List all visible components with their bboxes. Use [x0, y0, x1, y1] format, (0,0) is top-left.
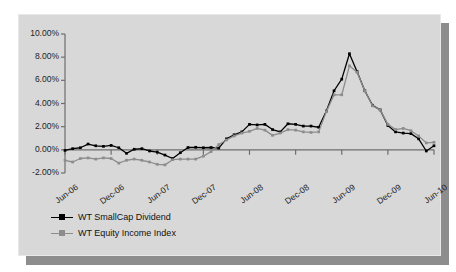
series-point-marker [264, 129, 267, 132]
series-point-marker [79, 157, 82, 160]
series-point-marker [179, 158, 182, 161]
y-axis-tick-label: 10.00% [15, 28, 59, 38]
series-point-marker [248, 130, 251, 133]
series-point-marker [240, 132, 243, 135]
series-point-marker [402, 132, 405, 135]
series-point-marker [340, 93, 343, 96]
series-point-marker [410, 132, 413, 135]
series-point-marker [94, 158, 97, 161]
series-point-marker [117, 146, 120, 149]
series-point-marker [141, 159, 144, 162]
y-axis-tick-label: 8.00% [15, 51, 59, 61]
series-point-marker [417, 135, 420, 138]
legend-item-0: WT SmallCap Dividend [51, 211, 171, 223]
series-point-marker [256, 124, 259, 127]
series-point-marker [125, 152, 128, 155]
series-point-marker [117, 162, 120, 165]
series-point-marker [348, 65, 351, 68]
y-axis-tick-label: 6.00% [15, 74, 59, 84]
series-point-marker [233, 135, 236, 138]
series-point-marker [417, 137, 420, 140]
series-point-marker [110, 157, 113, 160]
series-point-marker [302, 131, 305, 134]
series-point-marker [202, 146, 205, 149]
series-point-marker [164, 164, 167, 167]
legend-item-1: WT Equity Income Index [51, 227, 176, 239]
chart-axes [61, 34, 434, 173]
series-point-marker [202, 155, 205, 158]
series-point-marker [156, 163, 159, 166]
series-point-marker [87, 157, 90, 160]
series-point-marker [210, 150, 213, 153]
series-point-marker [217, 147, 220, 150]
series-point-marker [148, 161, 151, 164]
y-axis-tick-label: 0.00% [15, 144, 59, 154]
series-point-marker [310, 131, 313, 134]
y-axis-tick-label: 4.00% [15, 98, 59, 108]
series-point-marker [156, 151, 159, 154]
series-point-marker [64, 149, 67, 152]
series-point-marker [256, 127, 259, 130]
series-point-marker [110, 144, 113, 147]
series-point-marker [102, 145, 105, 148]
series-point-marker [94, 144, 97, 147]
series-point-marker [363, 89, 366, 92]
series-point-marker [187, 158, 190, 161]
series-point-marker [425, 150, 428, 153]
series-point-marker [333, 93, 336, 96]
series-point-marker [194, 146, 197, 149]
series-point-marker [102, 157, 105, 160]
series-point-marker [302, 125, 305, 128]
series-point-marker [164, 154, 167, 157]
series-point-marker [194, 158, 197, 161]
legend-marker-series-1 [51, 213, 73, 222]
y-axis-tick-label: -2.00% [15, 167, 59, 177]
legend-marker-series-2 [51, 229, 73, 238]
series-point-marker [179, 151, 182, 154]
series-point-marker [141, 147, 144, 150]
series-point-marker [410, 129, 413, 132]
series-point-marker [271, 128, 274, 131]
series-point-marker [402, 127, 405, 130]
series-point-marker [225, 139, 228, 142]
chart-image: 10.00%8.00%6.00%4.00%2.00%0.00%-2.00% Ju… [0, 0, 456, 272]
series-point-marker [340, 78, 343, 81]
series-point-marker [279, 132, 282, 135]
series-point-marker [187, 146, 190, 149]
legend-label-series-1: WT SmallCap Dividend [78, 212, 171, 222]
series-point-marker [387, 123, 390, 126]
legend-label-series-2: WT Equity Income Index [78, 228, 176, 238]
series-point-marker [264, 123, 267, 126]
series-point-marker [248, 123, 251, 126]
chart-series-layer [64, 52, 436, 166]
series-point-marker [310, 125, 313, 128]
series-point-marker [210, 146, 213, 149]
series-point-marker [348, 52, 351, 55]
series-point-marker [325, 110, 328, 113]
series-point-marker [271, 134, 274, 137]
series-point-marker [425, 142, 428, 145]
series-point-marker [394, 131, 397, 134]
series-point-marker [317, 131, 320, 134]
series-point-marker [64, 159, 67, 162]
series-point-marker [287, 122, 290, 125]
series-point-marker [287, 128, 290, 131]
series-point-marker [217, 143, 220, 146]
series-point-marker [294, 129, 297, 132]
y-axis-tick-label: 2.00% [15, 121, 59, 131]
series-point-marker [356, 71, 359, 74]
series-line [65, 54, 434, 159]
series-point-marker [133, 158, 136, 161]
series-point-marker [171, 158, 174, 161]
series-point-marker [371, 104, 374, 107]
series-point-marker [433, 144, 436, 147]
series-point-marker [133, 148, 136, 151]
series-point-marker [294, 123, 297, 126]
chart-series-1 [64, 52, 436, 160]
series-point-marker [71, 147, 74, 150]
series-point-marker [394, 128, 397, 131]
series-point-marker [125, 159, 128, 162]
series-point-marker [79, 146, 82, 149]
series-point-marker [379, 109, 382, 112]
series-point-marker [71, 161, 74, 164]
